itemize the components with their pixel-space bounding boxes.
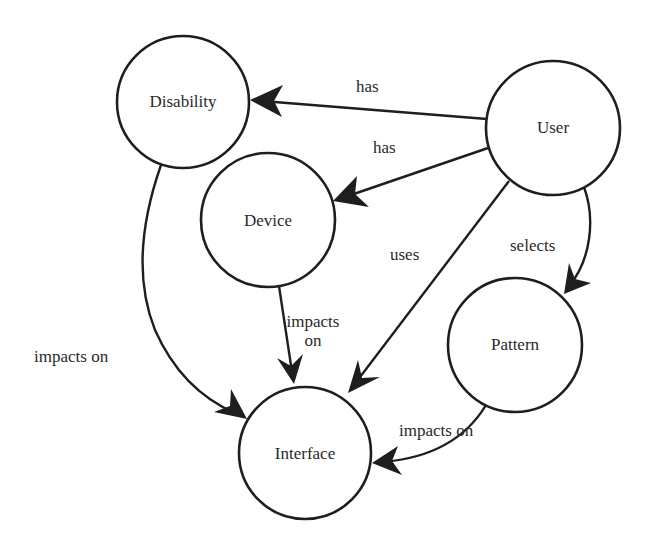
edge-label-device-interface: impacts on bbox=[278, 312, 348, 350]
edge-label-user-disability: has bbox=[356, 77, 379, 96]
edge-label-user-interface: uses bbox=[390, 245, 419, 264]
node-label-pattern: Pattern bbox=[491, 335, 539, 355]
edge-label-user-pattern: selects bbox=[510, 236, 555, 255]
edge-pattern-interface bbox=[372, 405, 486, 475]
node-label-device: Device bbox=[244, 211, 292, 231]
diagram-graph bbox=[0, 0, 654, 546]
edge-label-device-interface-line2: on bbox=[278, 331, 348, 350]
node-label-interface: Interface bbox=[275, 444, 335, 464]
edge-label-disability-interface: impacts on bbox=[34, 347, 108, 366]
diagram-canvas: Disability User Device Pattern Interface… bbox=[0, 0, 654, 546]
edge-label-user-device: has bbox=[373, 138, 396, 157]
edge-label-pattern-interface: impacts on bbox=[399, 421, 473, 440]
edge-user-pattern bbox=[564, 187, 591, 294]
edge-label-device-interface-line1: impacts bbox=[278, 312, 348, 331]
edge-user-device bbox=[333, 148, 488, 207]
node-label-user: User bbox=[537, 118, 569, 138]
node-label-disability: Disability bbox=[149, 92, 216, 112]
